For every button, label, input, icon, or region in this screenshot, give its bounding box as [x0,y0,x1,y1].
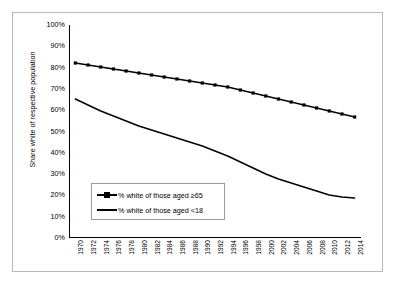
y-axis-tick-label: 70% [35,85,65,92]
legend-item-aged-65-plus: % white of those aged ≥65 [97,189,203,201]
y-axis-tick-label: 100% [35,21,65,28]
x-axis-tick-label: 2010 [332,240,339,255]
y-axis-tick-label: 0% [35,234,65,241]
plot-area: % white of those aged ≥65 % white of tho… [69,25,361,238]
x-axis-tick-label: 2014 [358,240,365,255]
legend-marker-line-icon [97,205,117,215]
x-axis-tick-label: 1970 [78,240,85,255]
x-axis-tick-label: 1986 [180,240,187,255]
x-axis-tick-label: 1974 [104,240,111,255]
x-axis-tick-label: 1994 [231,240,238,255]
y-axis-tick-label: 50% [35,128,65,135]
y-axis-tick-label: 10% [35,213,65,220]
x-axis-tick-label: 1972 [91,240,98,255]
x-axis-tick-label: 2002 [281,240,288,255]
x-axis-tick-label: 2006 [307,240,314,255]
x-axis-tick-label: 1980 [142,240,149,255]
x-axis-tick-labels: 1970197219741976197819801982198419861988… [69,240,361,274]
chart-legend: % white of those aged ≥65 % white of tho… [91,183,225,220]
y-axis-tick-label: 40% [35,149,65,156]
y-axis-tick-label: 90% [35,42,65,49]
x-axis-tick-label: 1990 [205,240,212,255]
x-axis-tick-label: 2000 [269,240,276,255]
x-axis-tick-label: 1988 [193,240,200,255]
y-axis-tick-labels: 100%90%80%70%60%50%40%30%20%10%0% [27,13,65,273]
x-axis-tick-label: 1984 [167,240,174,255]
x-axis-tick-label: 1982 [155,240,162,255]
legend-label: % white of those aged ≥65 [117,191,203,200]
chart-root: Share white of respective population 100… [13,13,384,273]
x-axis-tick-label: 1976 [116,240,123,255]
x-axis-tick-label: 1996 [243,240,250,255]
y-axis-tick-label: 30% [35,170,65,177]
legend-label: % white of those aged <18 [117,206,203,215]
x-axis-tick-label: 1998 [256,240,263,255]
legend-marker-square-icon [97,190,117,200]
x-axis-tick-label: 2004 [294,240,301,255]
y-axis-tick-label: 60% [35,106,65,113]
legend-item-aged-under-18: % white of those aged <18 [97,204,203,216]
x-axis-tick-label: 1978 [129,240,136,255]
y-axis-tick-label: 80% [35,64,65,71]
x-axis-tick-label: 2008 [320,240,327,255]
chart-figure: Share white of respective population 100… [12,12,383,272]
x-axis-tick-label: 2012 [345,240,352,255]
x-axis-tick-label: 1992 [218,240,225,255]
y-axis-tick-label: 20% [35,191,65,198]
